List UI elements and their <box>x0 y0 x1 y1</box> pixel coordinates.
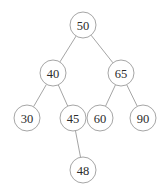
tree-edge-40-30 <box>34 84 47 106</box>
tree-edge-50-40 <box>60 36 76 62</box>
binary-search-tree-figure: 5040653045609048 <box>0 0 168 193</box>
tree-node-60: 60 <box>87 105 113 131</box>
tree-node-50: 50 <box>70 12 96 38</box>
tree-nodes: 5040653045609048 <box>14 12 156 183</box>
tree-node-label-60: 60 <box>94 112 107 126</box>
tree-node-label-30: 30 <box>21 112 34 126</box>
tree-edge-50-65 <box>91 35 113 63</box>
tree-node-30: 30 <box>14 105 40 131</box>
tree-node-45: 45 <box>60 105 86 131</box>
tree-node-label-65: 65 <box>115 67 128 81</box>
tree-edges <box>34 35 138 157</box>
tree-node-65: 65 <box>108 60 134 86</box>
tree-node-40: 40 <box>40 60 66 86</box>
tree-edge-40-45 <box>58 85 67 106</box>
tree-node-label-90: 90 <box>137 112 150 126</box>
tree-node-label-45: 45 <box>67 112 80 126</box>
tree-edge-65-90 <box>127 85 138 107</box>
tree-node-label-48: 48 <box>77 164 90 178</box>
tree-canvas: 5040653045609048 <box>0 0 168 193</box>
tree-node-48: 48 <box>70 157 96 183</box>
tree-node-90: 90 <box>130 105 156 131</box>
tree-edge-65-60 <box>106 85 116 106</box>
tree-node-label-50: 50 <box>77 19 90 33</box>
tree-edge-45-48 <box>75 131 80 157</box>
tree-node-label-40: 40 <box>47 67 60 81</box>
